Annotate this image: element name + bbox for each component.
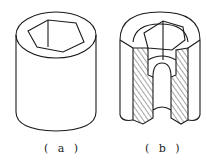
caption-b: ( b )	[145, 142, 183, 155]
panel-b-section	[120, 12, 200, 124]
hex-socket	[28, 20, 84, 52]
panel-a-cylinder	[16, 12, 96, 131]
caption-a: ( a )	[44, 142, 81, 155]
figure-canvas	[0, 0, 207, 164]
